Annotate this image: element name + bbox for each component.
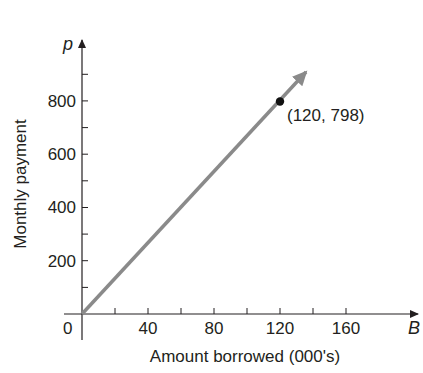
chart: 0 40 80 120 160 800 600 400 200 B p Amou… bbox=[0, 0, 423, 373]
x-tick-label-160: 160 bbox=[332, 319, 360, 338]
x-axis-title: Amount borrowed (000's) bbox=[150, 347, 340, 366]
x-ticks bbox=[115, 308, 346, 314]
x-tick-label-40: 40 bbox=[139, 319, 158, 338]
origin-label: 0 bbox=[63, 319, 72, 338]
x-tick-label-120: 120 bbox=[266, 319, 294, 338]
y-axis-title: Monthly payment bbox=[11, 119, 30, 249]
y-ticks bbox=[82, 74, 88, 287]
y-tick-label-200: 200 bbox=[48, 252, 76, 271]
y-tick-label-600: 600 bbox=[48, 145, 76, 164]
payment-line bbox=[82, 72, 306, 314]
y-axis-variable: p bbox=[62, 34, 73, 54]
data-point bbox=[276, 97, 284, 105]
y-tick-label-400: 400 bbox=[48, 198, 76, 217]
data-point-label: (120, 798) bbox=[287, 106, 365, 125]
y-tick-label-800: 800 bbox=[48, 92, 76, 111]
x-tick-label-80: 80 bbox=[205, 319, 224, 338]
x-axis-variable: B bbox=[408, 318, 420, 338]
